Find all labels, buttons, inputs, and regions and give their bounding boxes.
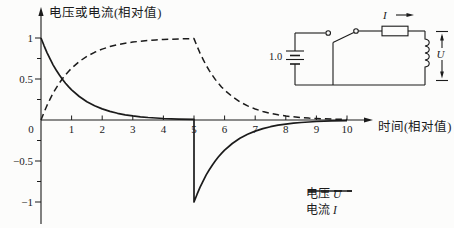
x-tick-label: 4 [161,123,167,135]
rl-transient-figure: 电压或电流(相对值) 时间(相对值) 01234567891010.5−0.5−… [0,0,454,228]
inductor-coil [425,31,429,85]
resistor [382,26,408,36]
x-tick-label: 9 [314,123,320,135]
switch-contact [354,29,359,34]
x-tick-label: 1 [69,123,75,135]
legend-swatch-dashed [306,186,354,196]
y-tick-label: 1 [28,32,34,44]
legend-label: 电流 I [306,200,337,218]
x-tick-label: 7 [252,123,258,135]
switch-lever [333,32,354,42]
voltage-label: U [437,48,446,60]
current-label: I [382,9,388,21]
y-axis-arrow-icon [38,7,43,16]
legend-item: 电流 I [306,202,341,216]
x-tick-label: 6 [222,123,228,135]
x-tick-label: 0 [28,123,34,135]
y-tick-label: −1 [21,196,33,208]
x-axis-arrow-icon [364,118,373,123]
circuit-inset: 1.0 I U [269,9,448,85]
y-tick-label: −0.5 [13,155,33,167]
current-arrow-icon [407,13,415,17]
battery-emf-label: 1.0 [269,51,282,62]
legend-symbol: I [333,204,337,216]
chart-canvas: 电压或电流(相对值) 时间(相对值) 01234567891010.5−0.5−… [0,0,454,228]
voltage-arrow-down-icon [440,72,444,79]
x-tick-label: 3 [130,123,136,135]
voltage-arrow-up-icon [440,34,444,41]
y-axis-title: 电压或电流(相对值) [49,5,161,20]
y-tick-label: 0.5 [19,73,33,85]
x-tick-label: 2 [99,123,105,135]
switch-contact [326,31,331,36]
x-axis-title: 时间(相对值) [378,119,451,134]
x-tick-label: 10 [342,123,354,135]
legend: 电压 U电流 I [306,186,341,216]
